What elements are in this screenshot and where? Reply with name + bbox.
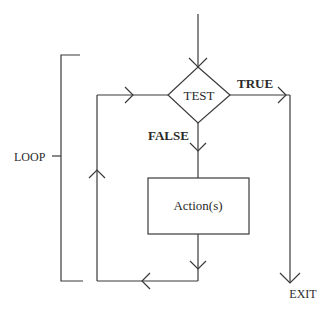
true-label: TRUE — [237, 76, 273, 91]
loop-flowchart: TEST TRUE EXIT FALSE Action(s) LOOP — [0, 0, 333, 313]
test-label: TEST — [183, 88, 214, 103]
action-process-node: Action(s) — [148, 178, 249, 234]
exit-label: EXIT — [289, 287, 317, 301]
false-branch: FALSE — [148, 123, 206, 178]
entry-arrow — [189, 14, 207, 67]
action-label: Action(s) — [173, 198, 222, 213]
loop-label: LOOP — [14, 150, 46, 164]
true-branch: TRUE EXIT — [230, 76, 317, 301]
test-decision-node: TEST — [168, 67, 230, 123]
false-label: FALSE — [148, 128, 189, 143]
loop-bracket: LOOP — [14, 55, 83, 281]
